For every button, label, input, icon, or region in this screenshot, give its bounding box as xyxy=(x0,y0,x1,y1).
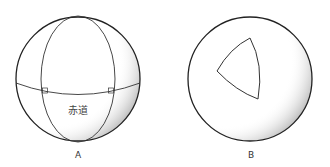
equator-label: 赤道 xyxy=(68,102,88,117)
figure-b-label: B xyxy=(248,150,254,160)
figure-a-label: A xyxy=(75,150,81,160)
sphere-b xyxy=(188,17,312,141)
sphere-a xyxy=(16,16,140,142)
spheres-diagram xyxy=(0,0,330,167)
